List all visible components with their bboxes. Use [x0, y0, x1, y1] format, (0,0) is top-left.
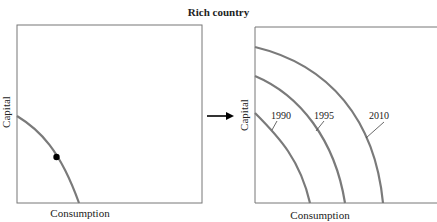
arrow-right-icon [207, 112, 234, 120]
left-ppf-curve [17, 116, 79, 203]
left-panel: Consumption Capital [0, 25, 202, 219]
right-y-axis-label: Capital [238, 99, 250, 131]
left-y-axis-label: Capital [0, 96, 12, 128]
production-point [53, 154, 59, 160]
left-panel-frame [17, 25, 202, 203]
ppf-curve-1995 [255, 76, 345, 203]
leader-line-1990 [272, 121, 277, 130]
curve-label-1990: 1990 [271, 110, 291, 121]
left-x-axis-label: Consumption [50, 207, 110, 219]
curve-label-1995: 1995 [314, 110, 334, 121]
leader-line-1995 [316, 121, 324, 131]
curve-label-2010: 2010 [369, 110, 389, 121]
ppf-diagram: Consumption Capital 1990 1995 2010 Consu… [0, 0, 437, 222]
ppf-curve-2010 [255, 47, 383, 203]
ppf-curve-1990 [255, 113, 310, 203]
right-panel: 1990 1995 2010 Consumption Capital [238, 27, 437, 221]
right-x-axis-label: Consumption [290, 209, 350, 221]
leader-line-2010 [366, 122, 384, 138]
